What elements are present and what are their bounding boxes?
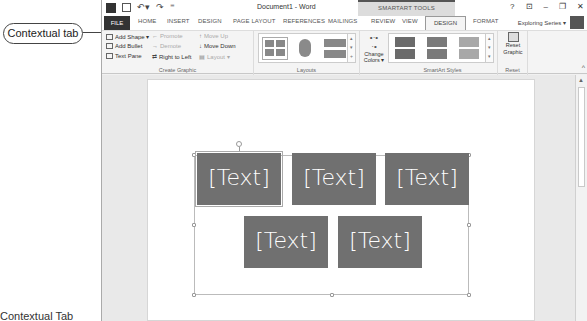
- tab-review[interactable]: REVIEW: [371, 18, 395, 24]
- word-app-icon: [106, 3, 116, 13]
- undo-icon[interactable]: ↶▾: [137, 2, 150, 13]
- demote-button[interactable]: → Demote: [152, 43, 181, 49]
- promote-button[interactable]: ← Promote: [152, 33, 183, 39]
- account-name[interactable]: Exploring Series ▾: [518, 19, 566, 26]
- title-bar: ↶▾ ↷ ⁼ Document1 - Word SMARTART TOOLS ?…: [102, 0, 587, 16]
- smartart-shape[interactable]: [Text]: [197, 153, 281, 205]
- layouts-gallery: ▴▾+: [258, 33, 356, 63]
- layout-thumbnail-cycle[interactable]: [292, 37, 318, 60]
- reset-graphic-icon: [508, 32, 519, 42]
- right-to-left-button[interactable]: ⇄ Right to Left: [152, 53, 191, 60]
- tab-mailings[interactable]: MAILINGS: [328, 18, 357, 24]
- swap-direction-icon: ⇄: [152, 53, 157, 60]
- window-title: Document1 - Word: [257, 3, 316, 10]
- style-thumbnail[interactable]: [427, 37, 447, 59]
- quick-access-toolbar: ↶▾ ↷ ⁼: [106, 2, 175, 13]
- smartart-styles-label: SmartArt Styles: [388, 67, 497, 73]
- tab-page-layout[interactable]: PAGE LAYOUT: [233, 18, 276, 24]
- ribbon-tabs: FILE HOME INSERT DESIGN PAGE LAYOUT REFE…: [102, 16, 587, 30]
- collapse-ribbon-icon[interactable]: ^: [582, 64, 585, 71]
- tab-file[interactable]: FILE: [104, 16, 130, 30]
- layout-button[interactable]: ▤ Layout ▾: [199, 53, 230, 60]
- layouts-group: ▴▾+ Layouts: [254, 31, 360, 75]
- change-colors-button[interactable]: •·•·• Change Colors ▾: [362, 33, 386, 65]
- window-controls: ? ⊡ – ❐ ✕: [510, 2, 584, 11]
- add-bullet-button[interactable]: Add Bullet: [106, 43, 142, 49]
- tab-smartart-format[interactable]: FORMAT: [473, 18, 499, 24]
- layout-thumbnail-basic-block[interactable]: [262, 37, 288, 60]
- style-thumbnail[interactable]: [395, 37, 415, 59]
- contextual-tab-callout: Contextual tab: [3, 23, 83, 44]
- smartart-shape[interactable]: [Text]: [292, 153, 376, 205]
- layouts-label: Layouts: [254, 67, 359, 73]
- screenshot-stage: Contextual tab Contextual Tab ↶▾ ↷ ⁼ Doc…: [0, 0, 587, 321]
- callout-leader-line: [83, 32, 103, 33]
- reset-group: Reset Graphic Reset: [498, 31, 528, 75]
- customize-qat-icon[interactable]: ⁼: [170, 2, 175, 13]
- style-thumbnail[interactable]: [459, 37, 479, 59]
- reset-graphic-button[interactable]: Reset Graphic: [500, 32, 526, 55]
- smartart-shape[interactable]: [Text]: [338, 216, 422, 268]
- vertical-scrollbar[interactable]: ▲: [575, 75, 587, 321]
- tab-insert[interactable]: INSERT: [167, 18, 190, 24]
- rotation-handle-stem: [239, 147, 240, 152]
- tab-view[interactable]: VIEW: [402, 18, 418, 24]
- add-shape-button[interactable]: Add Shape ▾: [106, 33, 149, 40]
- resize-handle[interactable]: [330, 293, 334, 297]
- layouts-gallery-scroll[interactable]: ▴▾+: [347, 34, 355, 62]
- create-graphic-label: Create Graphic: [102, 67, 253, 73]
- tab-home[interactable]: HOME: [138, 18, 156, 24]
- move-up-button[interactable]: ↑ Move Up: [199, 33, 228, 39]
- scroll-up-icon[interactable]: ▲: [578, 77, 584, 83]
- figure-caption: Contextual Tab: [0, 310, 73, 321]
- promote-arrow-icon: ←: [152, 33, 158, 39]
- reset-label: Reset: [498, 67, 527, 73]
- tab-references[interactable]: REFERENCES: [283, 18, 325, 24]
- change-colors-icon: •·•·•: [362, 33, 386, 51]
- smartart-styles-group: •·•·• Change Colors ▾ ▴▾▾ Smar: [360, 31, 498, 75]
- text-pane-button[interactable]: Text Pane: [106, 53, 142, 59]
- demote-arrow-icon: →: [152, 43, 158, 49]
- styles-gallery-scroll[interactable]: ▴▾▾: [485, 34, 493, 62]
- add-shape-icon: [106, 34, 113, 40]
- text-pane-icon: [106, 53, 113, 59]
- tab-design[interactable]: DESIGN: [198, 18, 222, 24]
- create-graphic-group: Add Shape ▾ Add Bullet Text Pane ← Promo…: [102, 31, 254, 75]
- save-icon[interactable]: [122, 3, 131, 12]
- smartart-shape[interactable]: [Text]: [385, 153, 469, 205]
- avatar[interactable]: [570, 16, 584, 29]
- scrollbar-thumb[interactable]: [578, 87, 585, 187]
- restore-icon[interactable]: ❐: [559, 2, 566, 11]
- move-up-icon: ↑: [199, 33, 202, 39]
- minimize-icon[interactable]: –: [544, 2, 548, 11]
- layout-thumbnail-list[interactable]: [322, 37, 348, 60]
- move-down-icon: ↓: [199, 43, 202, 49]
- smartart-styles-gallery: ▴▾▾: [388, 33, 494, 63]
- help-icon[interactable]: ?: [510, 2, 514, 11]
- layout-icon: ▤: [199, 53, 205, 60]
- close-icon[interactable]: ✕: [577, 2, 584, 11]
- ribbon: Add Shape ▾ Add Bullet Text Pane ← Promo…: [102, 30, 587, 74]
- smartart-shape[interactable]: [Text]: [244, 216, 328, 268]
- resize-handle[interactable]: [467, 293, 471, 297]
- redo-icon[interactable]: ↷: [156, 2, 164, 13]
- document-area: [Text] [Text] [Text] [Text] [Text]: [102, 75, 576, 321]
- resize-handle[interactable]: [467, 223, 471, 227]
- resize-handle[interactable]: [192, 223, 196, 227]
- word-window: ↶▾ ↷ ⁼ Document1 - Word SMARTART TOOLS ?…: [101, 0, 587, 321]
- resize-handle[interactable]: [192, 153, 196, 157]
- move-down-button[interactable]: ↓ Move Down: [199, 43, 236, 49]
- add-bullet-icon: [106, 43, 113, 49]
- tab-smartart-design[interactable]: DESIGN: [425, 16, 466, 30]
- resize-handle[interactable]: [192, 293, 196, 297]
- smartart-tools-header: SMARTART TOOLS: [358, 0, 455, 16]
- ribbon-display-options-icon[interactable]: ⊡: [526, 2, 533, 11]
